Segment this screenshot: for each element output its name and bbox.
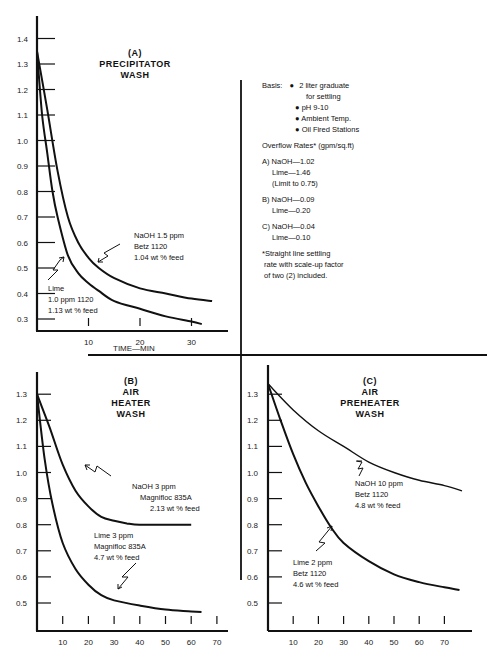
y-tick-label: 0.5 <box>17 264 29 273</box>
panel-c-title-line-1: (C) <box>363 376 377 386</box>
y-tick-label: 1.1 <box>247 442 259 451</box>
panel-b-title-line-1: (B) <box>124 376 138 386</box>
y-tick-label: 1.3 <box>17 60 29 69</box>
y-tick-label: 0.4 <box>17 290 29 299</box>
panel-b-title-line-4: WASH <box>117 409 146 419</box>
basis-item: for settling <box>262 91 359 102</box>
overflow-a-line-1: A) NaOH—1.02 <box>262 156 359 167</box>
x-tick-label: 60 <box>415 638 424 647</box>
panel-a-naoh-arrow-icon <box>98 244 120 262</box>
x-tick-label: 20 <box>314 638 323 647</box>
x-tick-label: 10 <box>84 338 93 347</box>
panel-c-naoh-label-3: 4.8 wt % feed <box>355 501 400 510</box>
panel-a-title-line-1: (A) <box>128 48 142 58</box>
x-tick-label: 60 <box>187 638 196 647</box>
x-tick-label: 70 <box>212 638 221 647</box>
panel-c-naoh-label-1: NaOH 10 ppm <box>355 479 403 488</box>
footnote-line-3: of two (2) included. <box>262 270 359 281</box>
y-tick-label: 1.3 <box>16 390 28 399</box>
overflow-title: Overflow Rates* (gpm/sq.ft) <box>262 140 359 151</box>
panel-c-title-line-3: PREHEATER <box>340 398 399 408</box>
panel-c-lime-label-2: Betz 1120 <box>293 569 326 578</box>
overflow-c-line-2: Lime—0.10 <box>262 232 359 243</box>
y-tick-label: 1.1 <box>16 442 28 451</box>
x-tick-label: 70 <box>440 638 449 647</box>
panel-b-naoh-label-2: Magnifloc 835A <box>140 493 192 502</box>
basis-label: Basis: <box>262 81 282 90</box>
panel-b-title-line-2: AIR <box>123 387 140 397</box>
panel-c-naoh-arrow-icon <box>356 461 363 476</box>
overflow-a-line-3: (Limit to 0.75) <box>262 178 359 189</box>
panel-b-naoh-label-3: 2.13 wt % feed <box>150 504 200 513</box>
overflow-a-line-2: Lime—1.46 <box>262 167 359 178</box>
x-tick-label: 30 <box>339 638 348 647</box>
footnote-line-1: *Straight line settling <box>262 248 359 259</box>
y-tick-label: 0.9 <box>247 495 259 504</box>
x-tick-label: 40 <box>364 638 373 647</box>
panel-c-naoh-label-2: Betz 1120 <box>355 490 388 499</box>
x-tick-label: 20 <box>84 638 93 647</box>
panel-b-naoh-label-1: NaOH 3 ppm <box>132 482 176 491</box>
panel-a-naoh-label-3: 1.04 wt % feed <box>134 253 184 262</box>
y-tick-label: 0.5 <box>247 599 259 608</box>
basis-item-row: ● Ambient Temp. <box>262 113 359 124</box>
panel-a-naoh-label-2: Betz 1120 <box>134 242 167 251</box>
y-tick-label: 1.4 <box>17 35 29 44</box>
y-tick-label: 0.5 <box>16 599 28 608</box>
panel-b-title-line-3: HEATER <box>111 398 150 408</box>
y-tick-label: 1.1 <box>17 111 29 120</box>
y-tick-label: 0.7 <box>17 213 29 222</box>
y-tick-label: 0.9 <box>16 495 28 504</box>
series-line-naoh <box>37 51 212 301</box>
x-tick-label: 50 <box>161 638 170 647</box>
y-tick-label: 1.2 <box>17 86 29 95</box>
y-tick-label: 0.7 <box>16 547 28 556</box>
overflow-b-line-2: Lime—0.20 <box>262 205 359 216</box>
panel-c-lime-label-3: 4.6 wt % feed <box>293 580 338 589</box>
x-tick-label: 30 <box>187 338 196 347</box>
y-tick-label: 0.8 <box>247 521 259 530</box>
basis-row: Basis: ● 2 liter graduate <box>262 80 359 91</box>
panel-c-lime-label-1: Lime 2 ppm <box>293 558 332 567</box>
settling-charts: 1.41.31.21.11.00.90.80.70.60.50.40.3 102… <box>0 0 487 657</box>
panel-b-naoh-arrow-icon <box>85 465 111 476</box>
footnote-line-2: rate with scale-up factor <box>262 259 359 270</box>
y-tick-label: 1.0 <box>16 469 28 478</box>
basis-item: pH 9-10 <box>302 103 329 112</box>
y-tick-label: 1.2 <box>247 416 259 425</box>
panel-a-lime-label-3: 1.13 wt % feed <box>48 306 98 315</box>
y-tick-label: 0.7 <box>247 547 259 556</box>
y-tick-label: 0.3 <box>17 315 29 324</box>
panel-a-lime-label-1: Lime <box>48 284 64 293</box>
basis-item: Oil Fired Stations <box>302 125 360 134</box>
y-tick-label: 1.2 <box>16 416 28 425</box>
panel-b-lime-arrow-icon <box>118 563 136 589</box>
y-tick-label: 0.6 <box>16 573 28 582</box>
panel-a-precipitator-wash: 1.41.31.21.11.00.90.80.70.60.50.40.3 102… <box>17 16 228 353</box>
x-tick-label: 10 <box>289 638 298 647</box>
x-tick-label: 10 <box>58 638 67 647</box>
notes-panel: Basis: ● 2 liter graduate for settling ●… <box>262 80 359 281</box>
panel-b-air-heater-wash: 1.31.21.11.00.90.80.70.60.5 102030405060… <box>16 372 228 647</box>
basis-item-row: ● Oil Fired Stations <box>262 124 359 135</box>
y-tick-label: 1.0 <box>247 469 259 478</box>
panel-a-x-label: TIME—MIN <box>113 344 155 353</box>
y-tick-label: 0.6 <box>247 573 259 582</box>
panel-c-lime-arrow-icon <box>316 526 332 551</box>
overflow-c-line-1: C) NaOH—0.04 <box>262 221 359 232</box>
y-tick-label: 0.8 <box>16 521 28 530</box>
panel-b-lime-label-3: 4.7 wt % feed <box>94 553 139 562</box>
panel-c-air-preheater-wash: 1.31.21.11.00.90.80.70.60.5 102030405060… <box>247 365 472 647</box>
y-tick-label: 0.6 <box>17 239 29 248</box>
basis-item: Ambient Temp. <box>301 114 351 123</box>
panel-c-title-line-4: WASH <box>356 409 385 419</box>
panel-c-title-line-2: AIR <box>362 387 379 397</box>
overflow-b-line-1: B) NaOH—0.09 <box>262 194 359 205</box>
panel-a-naoh-label-1: NaOH 1.5 ppm <box>134 231 184 240</box>
panel-b-lime-label-2: Magnifloc 835A <box>94 542 146 551</box>
x-tick-label: 40 <box>135 638 144 647</box>
y-tick-label: 0.9 <box>17 162 29 171</box>
x-tick-label: 50 <box>390 638 399 647</box>
y-tick-label: 1.0 <box>17 137 29 146</box>
x-tick-label: 30 <box>110 638 119 647</box>
